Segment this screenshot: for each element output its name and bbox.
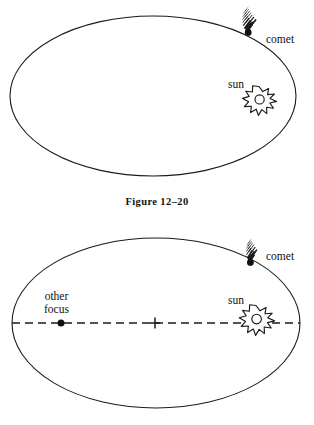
label-sun-top: sun bbox=[228, 78, 244, 91]
comet-nucleus-bottom bbox=[247, 259, 254, 266]
figure-12-20: Figure 12–20 comet sun comet sun other f… bbox=[0, 0, 314, 425]
diagram-canvas bbox=[0, 0, 314, 425]
other-focus-point bbox=[58, 320, 65, 327]
ellipse-center-cross-mark bbox=[150, 318, 160, 329]
comet-nucleus-top bbox=[245, 29, 252, 36]
label-comet-top: comet bbox=[266, 33, 294, 46]
figure-caption: Figure 12–20 bbox=[0, 196, 314, 207]
label-sun-bottom: sun bbox=[228, 294, 244, 307]
sun-icon-top bbox=[243, 86, 277, 116]
label-comet-bottom: comet bbox=[266, 250, 294, 263]
sun-icon-bottom bbox=[239, 305, 274, 336]
bottom-diagram-group bbox=[12, 238, 300, 408]
label-other-focus: other focus bbox=[44, 290, 69, 315]
top-diagram-group bbox=[10, 8, 296, 176]
